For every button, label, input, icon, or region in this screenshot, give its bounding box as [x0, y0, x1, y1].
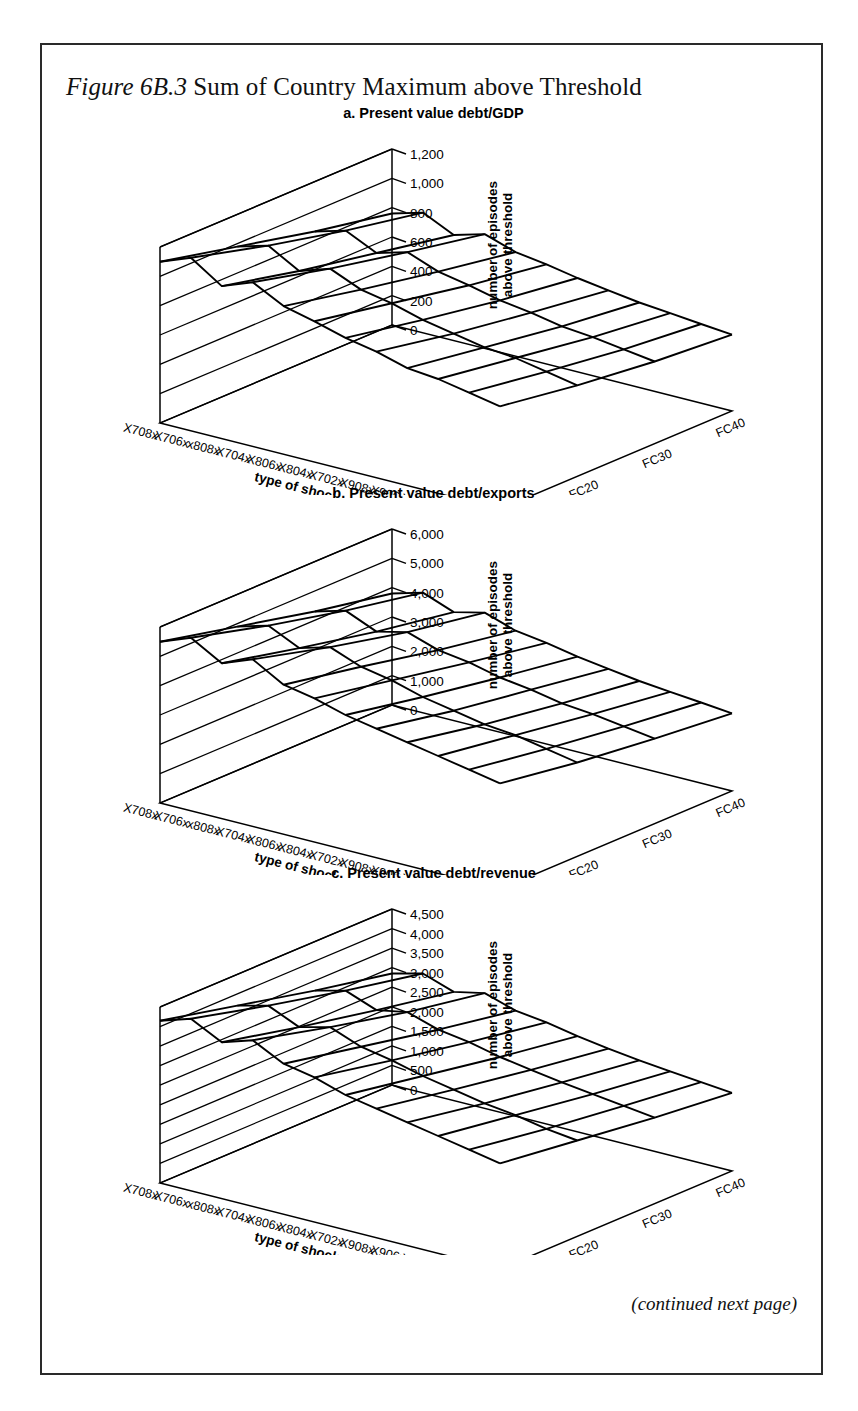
y-tick-label: 2,500	[410, 985, 444, 1000]
depth-tick-label: FC30	[640, 1206, 674, 1231]
depth-tick-label: FC40	[714, 415, 748, 440]
surface-plot-a: 02004006008001,0001,200number of episode…	[42, 123, 825, 495]
y-axis-title: number of episodesabove threshold	[485, 561, 515, 689]
figure-title-text: Sum of Country Maximum above Threshold	[193, 73, 641, 100]
figure-title: Figure 6B.3 Sum of Country Maximum above…	[66, 73, 796, 101]
depth-tick-label: FC40	[714, 1175, 748, 1200]
gridline-y	[160, 676, 392, 774]
y-tick-label: 0	[410, 703, 418, 718]
y-tick-label: 4,000	[410, 927, 444, 942]
surface-mesh	[160, 213, 732, 407]
mesh-line-shock	[237, 1006, 577, 1141]
y-tick-label: 0	[410, 323, 418, 338]
back-wall-gridlines	[160, 529, 392, 803]
depth-tick-label: FC20	[567, 1237, 601, 1255]
tick-mark	[392, 1046, 406, 1051]
y-tick-label: 5,000	[410, 556, 444, 571]
y-tick-label: 800	[410, 206, 433, 221]
tick-mark	[392, 646, 406, 651]
panel-c-title: c. Present value debt/revenue	[42, 865, 825, 881]
tick-mark	[392, 208, 406, 213]
y-tick-label: 4,000	[410, 586, 444, 601]
panel-c: c. Present value debt/revenue 05001,0001…	[42, 865, 825, 1260]
tick-mark	[392, 617, 406, 622]
tick-mark	[392, 149, 406, 154]
y-tick-label: 1,500	[410, 1024, 444, 1039]
mesh-line-depth	[160, 214, 392, 262]
tick-mark	[392, 588, 406, 593]
y-tick-label: 400	[410, 264, 433, 279]
tick-mark	[392, 948, 406, 953]
depth-axis-labels: FC10FC20FC30FC40	[494, 415, 748, 495]
panel-a: a. Present value debt/GDP 02004006008001…	[42, 105, 825, 500]
mesh-line-shock	[237, 246, 577, 386]
back-wall-gridlines	[160, 909, 392, 1183]
surface-mesh	[160, 593, 732, 784]
y-tick-label: 1,000	[410, 674, 444, 689]
y-tick-label: 200	[410, 294, 433, 309]
y-tick-label: 600	[410, 235, 433, 250]
continued-note: (continued next page)	[42, 1293, 797, 1315]
depth-tick-label: FC40	[714, 795, 748, 820]
y-tick-label: 0	[410, 1083, 418, 1098]
panel-a-title: a. Present value debt/GDP	[42, 105, 825, 121]
y-tick-label: 2,000	[410, 1005, 444, 1020]
gridline-y	[160, 266, 392, 364]
gridline-y	[160, 968, 392, 1066]
y-axis-title: number of episodesabove threshold	[485, 181, 515, 309]
tick-mark	[392, 266, 406, 271]
tick-mark	[392, 178, 406, 183]
y-tick-label: 4,500	[410, 907, 444, 922]
mesh-line-depth	[191, 974, 423, 1019]
panel-b-title: b. Present value debt/exports	[42, 485, 825, 501]
tick-mark	[392, 237, 406, 242]
gridline-y	[160, 1026, 392, 1124]
y-tick-label: 1,000	[410, 176, 444, 191]
y-tick-label: 3,500	[410, 946, 444, 961]
depth-tick-label: FC30	[640, 446, 674, 471]
depth-tick-label: FC30	[640, 826, 674, 851]
figure-number: Figure 6B.3	[66, 73, 187, 100]
gridline-y	[160, 646, 392, 744]
x-axis-labels: X708xX706xx808xX704xX806xX804xX702xX908x…	[122, 801, 501, 875]
tick-mark	[392, 987, 406, 992]
y-tick-label: 3,000	[410, 615, 444, 630]
mesh-line-depth	[284, 631, 516, 685]
mesh-line-depth	[253, 613, 485, 660]
surface-plot-c: 05001,0001,5002,0002,5003,0003,5004,0004…	[42, 883, 825, 1255]
y-tick-label: 500	[410, 1063, 433, 1078]
mesh-line-depth	[469, 1082, 701, 1150]
y-tick-label: 2,000	[410, 644, 444, 659]
x-axis-labels: X708xX706xx808xX704xX806xX804xX702xX908x…	[122, 1181, 501, 1255]
tick-mark	[392, 558, 406, 563]
tick-mark	[392, 968, 406, 973]
gridline-y	[160, 1046, 392, 1144]
wall-top-rim	[160, 909, 392, 1007]
wall-top-rim	[160, 149, 392, 247]
figure-page: Figure 6B.3 Sum of Country Maximum above…	[0, 0, 858, 1411]
tick-mark	[392, 296, 406, 301]
wall-top-rim	[160, 529, 392, 627]
tick-mark	[392, 1026, 406, 1031]
gridline-y	[160, 1065, 392, 1163]
depth-axis-labels: FC10FC20FC30FC40	[494, 795, 748, 875]
y-tick-label: 1,200	[410, 147, 444, 162]
tick-mark	[392, 529, 406, 534]
tick-mark	[392, 909, 406, 914]
panel-b: b. Present value debt/exports 01,0002,00…	[42, 485, 825, 880]
y-tick-label: 1,000	[410, 1044, 444, 1059]
surface-plot-b: 01,0002,0003,0004,0005,0006,000number of…	[42, 503, 825, 875]
x-axis-labels: X708xX706xx808xX704xX806xX804xX702xX908x…	[122, 421, 501, 495]
tick-mark	[392, 929, 406, 934]
mesh-line-shock	[160, 638, 500, 784]
figure-frame: Figure 6B.3 Sum of Country Maximum above…	[40, 43, 823, 1375]
y-tick-label: 3,000	[410, 966, 444, 981]
y-axis-ticks: 02004006008001,0001,200number of episode…	[392, 147, 515, 338]
y-axis-title: number of episodesabove threshold	[485, 941, 515, 1069]
y-tick-label: 6,000	[410, 527, 444, 542]
depth-axis-labels: FC10FC20FC30FC40	[494, 1175, 748, 1255]
